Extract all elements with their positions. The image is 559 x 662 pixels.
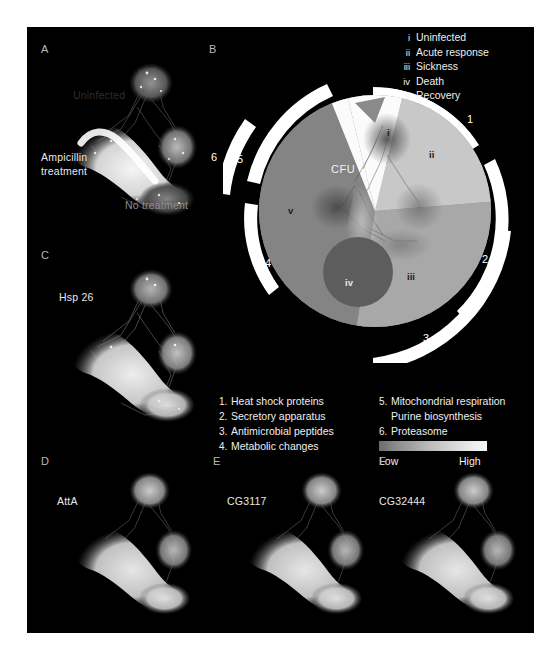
legend-label: Uninfected xyxy=(416,31,466,43)
legend-label: Death xyxy=(416,75,444,87)
legend-label: Secretory apparatus xyxy=(231,410,326,422)
legend-row: 3. Antimicrobial peptides xyxy=(219,425,334,437)
legend-row: v Recovery xyxy=(394,89,530,101)
figure-canvas: A xyxy=(27,27,534,633)
sector-label-v: v xyxy=(288,205,293,216)
infection-cycle-disk: CFU i ii iii iv v xyxy=(259,95,491,327)
sector-label-i: i xyxy=(387,127,390,138)
death-circle xyxy=(323,237,393,307)
panel-f-title: CG32444 xyxy=(379,495,425,507)
panel-c-title: Hsp 26 xyxy=(59,291,93,303)
legend-label: Acute response xyxy=(416,46,489,58)
legend-label: Antimicrobial peptides xyxy=(231,425,334,437)
legend-number: 4. xyxy=(219,441,231,452)
panel-f-network xyxy=(375,459,534,631)
legend-number: 3. xyxy=(219,426,231,437)
panel-d-network xyxy=(51,459,211,631)
legend-row: iii Sickness xyxy=(394,60,530,72)
module-legend-column-b: 5. Mitochondrial respiration Purine bios… xyxy=(379,395,505,440)
panel-e-title: CG3117 xyxy=(227,495,267,507)
legend-roman: ii xyxy=(394,47,410,58)
panel-a-treatment-label: treatment xyxy=(41,165,87,177)
legend-roman: i xyxy=(394,32,410,43)
arc-number-5: 5 xyxy=(237,153,243,165)
legend-row: 6. Proteasome xyxy=(379,425,505,437)
panel-c-letter: C xyxy=(41,249,49,261)
panel-a-ampicillin-label: Ampicillin xyxy=(41,151,87,163)
panel-e-network xyxy=(223,459,383,631)
legend-label: Purine biosynthesis xyxy=(391,410,482,422)
sector-label-iv: iv xyxy=(345,277,353,288)
legend-number: 2. xyxy=(219,411,231,422)
arc-number-3: 3 xyxy=(423,332,429,344)
legend-row: 5. Mitochondrial respiration xyxy=(379,395,505,407)
panel-a-letter: A xyxy=(41,43,49,55)
legend-label: Recovery xyxy=(416,89,460,101)
panel-a-no-treatment-label: No treatment xyxy=(125,199,188,211)
legend-label: Mitochondrial respiration xyxy=(391,395,505,407)
legend-row: i Uninfected xyxy=(394,31,530,43)
legend-number: 6. xyxy=(379,426,391,437)
legend-row: ii Acute response xyxy=(394,46,530,58)
intensity-colorbar xyxy=(379,441,487,451)
legend-roman: iv xyxy=(394,76,410,87)
panel-d-title: AttA xyxy=(57,495,78,507)
legend-roman: v xyxy=(394,90,410,101)
module-legend-column-a: 1. Heat shock proteins 2. Secretory appa… xyxy=(219,395,334,455)
legend-label: Heat shock proteins xyxy=(231,395,324,407)
panel-a-uninfected-label: Uninfected xyxy=(73,89,125,101)
sector-label-ii: ii xyxy=(429,149,434,160)
panel-b-letter: B xyxy=(209,43,217,55)
legend-row: Purine biosynthesis xyxy=(379,410,505,422)
legend-label: Metabolic changes xyxy=(231,440,319,452)
stage-legend: i Uninfected ii Acute response iii Sickn… xyxy=(394,31,530,104)
legend-label: Sickness xyxy=(416,60,458,72)
panel-d-letter: D xyxy=(41,455,49,467)
legend-number: 1. xyxy=(219,396,231,407)
cfu-label: CFU xyxy=(331,163,355,175)
arc-number-6: 6 xyxy=(211,151,217,163)
legend-row: 4. Metabolic changes xyxy=(219,440,334,452)
legend-row: 1. Heat shock proteins xyxy=(219,395,334,407)
legend-row: 2. Secretory apparatus xyxy=(219,410,334,422)
sector-label-iii: iii xyxy=(407,271,415,282)
legend-label: Proteasome xyxy=(391,425,448,437)
legend-row: iv Death xyxy=(394,75,530,87)
panel-c-network xyxy=(51,255,211,440)
arc-number-2: 2 xyxy=(482,253,488,265)
legend-roman: iii xyxy=(394,61,410,72)
arc-number-1: 1 xyxy=(467,113,473,125)
arc-number-4: 4 xyxy=(265,257,271,269)
panel-e-letter: E xyxy=(213,455,221,467)
legend-number: 5. xyxy=(379,396,391,407)
